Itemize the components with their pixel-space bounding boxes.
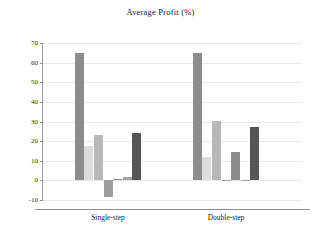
chart-container: Average Profit (%) 706050403020100-10 Si… — [0, 0, 321, 243]
bar — [241, 180, 250, 181]
y-axis-tick-label: 50 — [14, 79, 38, 86]
y-axis-tick-label-wrap: 60 — [14, 60, 38, 67]
bar — [193, 53, 202, 181]
bar — [123, 177, 132, 180]
bar — [222, 180, 231, 181]
bar — [231, 152, 240, 180]
y-axis-tick-label-wrap: 70 — [14, 40, 38, 47]
bar — [94, 135, 103, 180]
y-axis-tick-label: -10 — [14, 197, 38, 204]
y-axis-tick-label-wrap: 30 — [14, 119, 38, 126]
y-axis-tick-label-wrap: 20 — [14, 138, 38, 145]
bar — [132, 133, 141, 180]
y-axis-tick-label-wrap: -10 — [14, 197, 38, 204]
y-axis-tick-label: 10 — [14, 158, 38, 165]
bar — [75, 53, 84, 181]
y-axis-tick-label: 30 — [14, 119, 38, 126]
bar — [84, 146, 93, 180]
gridline — [43, 200, 302, 201]
chart-title: Average Profit (%) — [0, 7, 321, 17]
y-axis-tick-label-wrap: 0 — [14, 177, 38, 184]
y-axis-tick-label: 0 — [14, 177, 38, 184]
bar — [212, 121, 221, 181]
bar — [113, 179, 122, 180]
y-axis-tick-label: 20 — [14, 138, 38, 145]
plot-area — [43, 43, 302, 200]
y-axis-tick-label-wrap: 40 — [14, 99, 38, 106]
y-axis-tick-label: 70 — [14, 40, 38, 47]
x-axis-tick-label: Double-step — [176, 213, 276, 222]
x-axis-tick-label: Single-step — [58, 213, 158, 222]
bar — [202, 157, 211, 181]
y-axis-tick-label-wrap: 50 — [14, 79, 38, 86]
bar — [104, 180, 113, 197]
y-axis-tick-mark — [40, 200, 43, 201]
x-axis-label-rule — [35, 209, 310, 210]
y-axis-tick-label: 40 — [14, 99, 38, 106]
bar — [250, 127, 259, 180]
y-axis-tick-label-wrap: 10 — [14, 158, 38, 165]
y-axis-tick-label: 60 — [14, 60, 38, 67]
